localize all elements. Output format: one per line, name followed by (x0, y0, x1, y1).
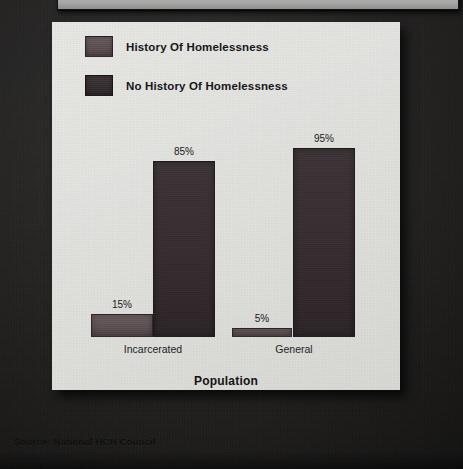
bar-incarcerated-history (91, 314, 153, 337)
bar-value-general-history: 5% (232, 313, 292, 324)
category-label-incarcerated: Incarcerated (83, 343, 223, 355)
screenshot-root: History Of Homelessness No History Of Ho… (0, 0, 463, 469)
source-caption: Source: National HCH Council (14, 436, 156, 447)
bar-incarcerated-no-history (153, 161, 215, 337)
chart-panel: History Of Homelessness No History Of Ho… (52, 22, 400, 390)
bar-value-incarcerated-history: 15% (91, 299, 153, 310)
x-axis-title: Population (52, 374, 400, 388)
bar-general-no-history (293, 148, 355, 337)
bar-value-incarcerated-no-history: 85% (153, 146, 215, 157)
bar-value-general-no-history: 95% (293, 133, 355, 144)
top-partial-panel (57, 0, 459, 10)
plot-area: 15% 85% Incarcerated 5% 95% General Popu… (52, 22, 400, 390)
bar-general-history (232, 328, 292, 337)
category-label-general: General (224, 343, 364, 355)
